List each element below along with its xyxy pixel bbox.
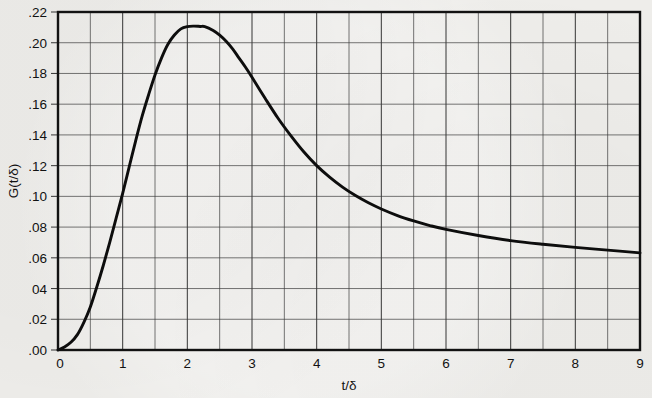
y-tick-label: 04 — [32, 282, 48, 297]
x-tick-label: 2 — [184, 356, 192, 371]
x-axis-title: t/δ — [341, 378, 356, 393]
y-tick-label: .00 — [28, 343, 47, 358]
y-tick-label: .06 — [28, 251, 47, 266]
y-tick-label: .16 — [28, 97, 47, 112]
x-tick-label: 6 — [442, 356, 450, 371]
y-tick-label: .08 — [28, 220, 47, 235]
x-tick-label: 3 — [248, 356, 256, 371]
chart-canvas: .00.0204.06.08.10.12.14.16.18.20.22 0123… — [0, 0, 652, 398]
y-tick-label: .10 — [28, 189, 47, 204]
y-axis-tick-labels: .00.0204.06.08.10.12.14.16.18.20.22 — [28, 5, 47, 358]
y-axis-title: G(t/δ) — [6, 164, 21, 199]
x-tick-label: 1 — [119, 356, 127, 371]
x-tick-label: 0 — [56, 356, 64, 371]
y-tick-label: .14 — [28, 128, 47, 143]
x-tick-label: 7 — [507, 356, 515, 371]
x-axis-tick-labels: 0123456789 — [56, 356, 644, 371]
y-tick-label: .20 — [28, 36, 47, 51]
x-tick-label: 8 — [572, 356, 580, 371]
grid-minor-vertical — [90, 12, 607, 350]
x-tick-label: 4 — [313, 356, 321, 371]
y-tick-label: .22 — [28, 5, 47, 20]
figure-page: .00.0204.06.08.10.12.14.16.18.20.22 0123… — [0, 0, 652, 398]
y-tick-label: .12 — [28, 159, 47, 174]
x-tick-label: 9 — [636, 356, 644, 371]
y-tick-label: .18 — [28, 66, 47, 81]
x-tick-label: 5 — [378, 356, 386, 371]
y-tick-label: .02 — [28, 312, 47, 327]
